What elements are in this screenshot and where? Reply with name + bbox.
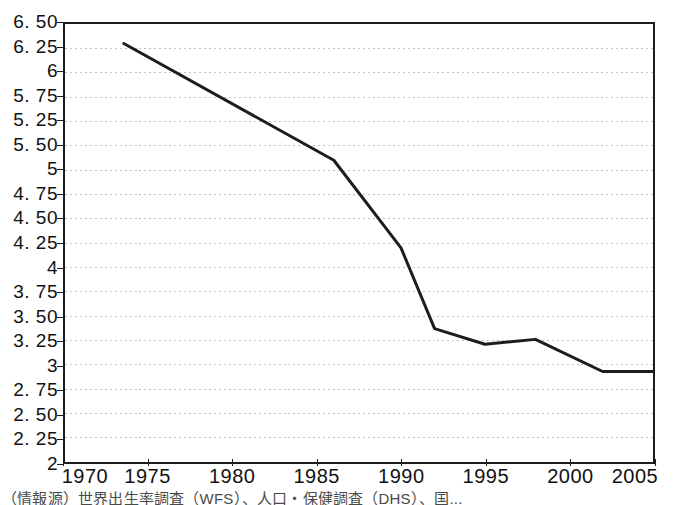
y-tick-label: 5. 50: [0, 135, 58, 154]
y-tick-label: 3. 75: [0, 282, 58, 301]
y-tick-label: 2. 25: [0, 429, 58, 448]
x-tick-mark: [63, 459, 64, 466]
y-tick-label: 3. 25: [0, 331, 58, 350]
y-axis-tick-labels: 6. 506. 2565. 755. 255. 5054. 754. 504. …: [0, 0, 60, 505]
plot-area: [63, 22, 655, 464]
y-tick-label: 5. 25: [0, 110, 58, 129]
y-tick-label: 6. 50: [0, 12, 58, 31]
x-tick-label: 1995: [463, 466, 510, 486]
y-tick-label: 3: [0, 356, 58, 375]
x-tick-label: 1975: [124, 466, 171, 486]
y-tick-label: 6: [0, 61, 58, 80]
fertility-rate-chart-figure: 6. 506. 2565. 755. 255. 5054. 754. 504. …: [0, 0, 675, 505]
x-tick-label: 1980: [209, 466, 256, 486]
x-tick-mark: [655, 459, 656, 466]
y-tick-label: 5: [0, 159, 58, 178]
y-tick-label: 5. 75: [0, 86, 58, 105]
x-tick-mark: [148, 459, 149, 466]
x-tick-mark: [486, 459, 487, 466]
y-tick-label: 6. 25: [0, 37, 58, 56]
y-tick-label: 4: [0, 258, 58, 277]
series-line-fertility-rate: [124, 43, 653, 371]
y-tick-label: 2. 50: [0, 405, 58, 424]
x-tick-label: 2005: [612, 466, 659, 486]
source-caption: （情報源）世界出生率調査（WFS）、人口・保健調査（DHS）、国...: [2, 489, 675, 505]
data-series-line: [65, 24, 653, 462]
y-tick-label: 3. 50: [0, 307, 58, 326]
x-tick-mark: [570, 459, 571, 466]
y-tick-label: 4. 75: [0, 184, 58, 203]
y-tick-label: 2. 75: [0, 380, 58, 399]
y-tick-label: 4. 50: [0, 208, 58, 227]
x-tick-mark: [232, 459, 233, 466]
x-tick-label: 2000: [547, 466, 594, 486]
y-tick-label: 4. 25: [0, 233, 58, 252]
x-tick-mark: [317, 459, 318, 466]
x-tick-label: 1985: [293, 466, 340, 486]
x-tick-label: 1970: [62, 466, 109, 486]
x-tick-mark: [401, 459, 402, 466]
x-tick-label: 1990: [378, 466, 425, 486]
